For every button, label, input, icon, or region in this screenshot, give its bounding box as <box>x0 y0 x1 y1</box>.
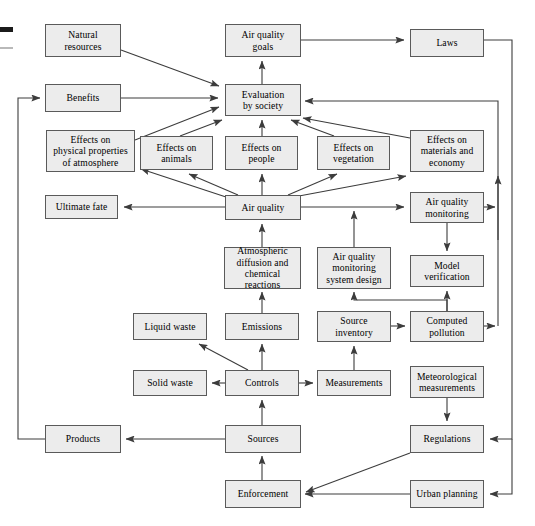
node-label: Modelverification <box>422 260 471 283</box>
edge-products-to-benefits <box>18 98 45 439</box>
node-label: Meteorologicalmeasurements <box>415 371 479 394</box>
node-label: Regulations <box>422 433 473 444</box>
node-label: Benefits <box>65 92 102 103</box>
node-emissions[interactable]: Emissions <box>225 313 299 340</box>
crop-mark-light-bar <box>0 47 13 49</box>
node-model_verification[interactable]: Modelverification <box>410 255 484 287</box>
node-label: Atmosphericdiffusion andchemical reactio… <box>225 245 300 291</box>
diagram-canvas: NaturalresourcesAir qualitygoalsLawsBene… <box>0 0 535 526</box>
node-label: Computedpollution <box>425 315 470 338</box>
edge-regulations-to-enforcement <box>306 453 410 492</box>
edge-rail-to-urban-planning <box>490 439 512 494</box>
node-label: Evaluationby society <box>240 89 287 112</box>
node-benefits[interactable]: Benefits <box>45 84 121 112</box>
node-label: Sources <box>245 433 280 444</box>
node-label: Effects onvegetation <box>331 142 376 165</box>
node-label: Ultimate fate <box>54 201 110 212</box>
node-label: Measurements <box>323 377 384 388</box>
node-evaluation_by_society[interactable]: Evaluationby society <box>225 84 301 116</box>
node-label: Effects onpeople <box>240 142 284 165</box>
edge-computed-to-design <box>354 292 447 311</box>
edge-airquality-to-physical <box>141 169 226 197</box>
edge-airquality-to-materials <box>299 176 406 196</box>
edge-controls-to-liquid-waste <box>199 344 248 370</box>
node-effects_physical_properties[interactable]: Effects onphysical propertiesof atmosphe… <box>46 130 135 172</box>
node-label: Air qualitygoals <box>240 29 287 52</box>
node-natural_resources[interactable]: Naturalresources <box>45 24 121 57</box>
node-solid_waste[interactable]: Solid waste <box>133 370 207 396</box>
node-label: Emissions <box>240 321 284 332</box>
node-label: Laws <box>434 37 459 48</box>
node-products[interactable]: Products <box>45 425 121 453</box>
node-controls[interactable]: Controls <box>225 370 299 396</box>
node-regulations[interactable]: Regulations <box>410 425 484 453</box>
node-urban_planning[interactable]: Urban planning <box>410 480 484 508</box>
node-measurements[interactable]: Measurements <box>317 370 391 396</box>
node-air_quality[interactable]: Air quality <box>225 195 301 220</box>
node-effects_animals[interactable]: Effects onanimals <box>140 136 213 170</box>
node-effects_people[interactable]: Effects onpeople <box>225 136 298 170</box>
node-sources[interactable]: Sources <box>225 425 301 453</box>
node-label: Naturalresources <box>62 29 103 52</box>
node-enforcement[interactable]: Enforcement <box>225 480 301 508</box>
node-label: Urban planning <box>414 488 479 499</box>
node-label: Effects onanimals <box>155 142 199 165</box>
edge-materials-to-evaluation <box>303 118 410 138</box>
edge-airquality-to-vegetation <box>288 174 337 195</box>
node-effects_materials_economy[interactable]: Effects onmaterials andeconomy <box>410 130 484 172</box>
node-label: Air qualitymonitoringsystem design <box>324 251 383 285</box>
edge-airquality-to-animals <box>189 174 238 195</box>
node-label: Liquid waste <box>142 321 197 332</box>
node-label: Controls <box>243 377 281 388</box>
node-label: Effects onphysical propertiesof atmosphe… <box>51 134 130 168</box>
node-aq_monitoring_system_design[interactable]: Air qualitymonitoringsystem design <box>317 247 391 289</box>
node-label: Effects onmaterials andeconomy <box>419 134 476 168</box>
node-laws[interactable]: Laws <box>410 29 484 57</box>
node-computed_pollution[interactable]: Computedpollution <box>410 311 484 342</box>
node-label: Products <box>64 433 102 444</box>
node-label: Solid waste <box>145 377 195 388</box>
node-effects_vegetation[interactable]: Effects onvegetation <box>317 136 390 170</box>
crop-mark-dark-bar <box>0 27 13 32</box>
node-label: Enforcement <box>236 488 291 499</box>
edge-animals-to-evaluation <box>180 120 222 136</box>
node-source_inventory[interactable]: Sourceinventory <box>317 311 391 342</box>
node-label: Air qualitymonitoring <box>423 196 471 219</box>
node-atmospheric_diffusion[interactable]: Atmosphericdiffusion andchemical reactio… <box>224 247 301 289</box>
node-meteorological_measurements[interactable]: Meteorologicalmeasurements <box>410 366 484 398</box>
node-label: Sourceinventory <box>333 315 375 338</box>
node-liquid_waste[interactable]: Liquid waste <box>133 313 207 340</box>
node-ultimate_fate[interactable]: Ultimate fate <box>45 195 118 219</box>
node-air_quality_monitoring[interactable]: Air qualitymonitoring <box>410 192 484 223</box>
edge-natural-resources-to-evaluation <box>121 50 219 86</box>
node-label: Air quality <box>240 202 287 213</box>
node-air_quality_goals[interactable]: Air qualitygoals <box>225 24 301 57</box>
